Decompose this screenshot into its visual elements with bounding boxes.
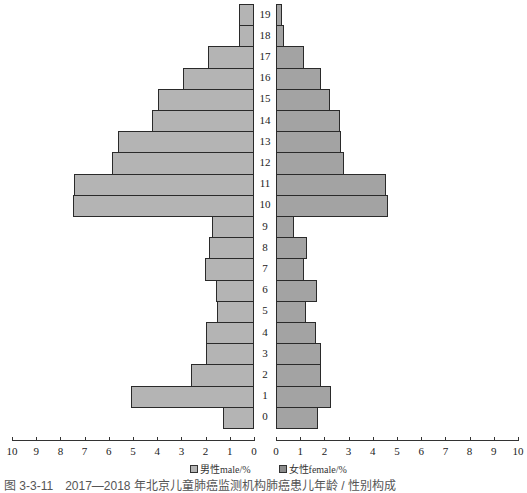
bar-female-age-10 [276, 195, 388, 217]
age-label: 6 [254, 283, 276, 295]
bar-male-age-6 [216, 280, 254, 302]
x-tick-label: 9 [484, 445, 504, 457]
x-tick-label: 5 [123, 445, 143, 457]
x-tick-label: 9 [26, 445, 46, 457]
age-label: 5 [254, 304, 276, 316]
x-tick [85, 437, 86, 441]
x-tick-label: 5 [387, 445, 407, 457]
x-tick [445, 437, 446, 441]
x-tick [60, 437, 61, 441]
age-label: 14 [254, 114, 276, 126]
bar-female-age-2 [276, 364, 321, 386]
bar-male-age-2 [191, 364, 254, 386]
bar-male-age-18 [239, 25, 254, 47]
legend-item-female: 女性female/% [279, 461, 347, 476]
x-tick [470, 437, 471, 441]
bar-female-age-14 [276, 110, 340, 132]
legend-label-male: 男性male/% [200, 461, 251, 476]
bar-male-age-9 [212, 216, 254, 238]
legend-item-male: 男性male/% [190, 461, 251, 476]
x-tick-label: 3 [171, 445, 191, 457]
bar-male-age-8 [209, 237, 254, 259]
x-tick [206, 437, 207, 441]
bar-male-age-19 [239, 4, 254, 26]
bar-male-age-15 [158, 89, 254, 111]
legend: 男性male/% 女性female/% [190, 461, 347, 476]
x-tick-label: 0 [266, 445, 286, 457]
age-label: 13 [254, 135, 276, 147]
legend-swatch-female [279, 465, 287, 473]
bar-female-age-17 [276, 46, 304, 68]
x-tick-label: 8 [460, 445, 480, 457]
age-label: 3 [254, 347, 276, 359]
legend-label-female: 女性female/% [289, 461, 347, 476]
x-tick-label: 6 [411, 445, 431, 457]
x-tick [109, 437, 110, 441]
age-label: 2 [254, 368, 276, 380]
x-tick-label: 7 [75, 445, 95, 457]
x-tick-label: 10 [508, 445, 527, 457]
age-label: 8 [254, 241, 276, 253]
x-tick [276, 437, 277, 441]
bar-female-age-19 [276, 4, 282, 26]
bar-female-age-9 [276, 216, 294, 238]
x-tick [300, 437, 301, 441]
x-tick [518, 437, 519, 441]
legend-swatch-male [190, 465, 198, 473]
x-tick [133, 437, 134, 441]
x-tick [421, 437, 422, 441]
bar-female-age-4 [276, 322, 316, 344]
x-tick-label: 1 [290, 445, 310, 457]
bar-male-age-14 [152, 110, 254, 132]
age-label: 15 [254, 92, 276, 104]
age-label: 9 [254, 220, 276, 232]
bar-male-age-7 [205, 258, 254, 280]
bar-male-age-11 [74, 174, 254, 196]
bar-female-age-5 [276, 301, 306, 323]
figure-caption: 图 3-3-11 2017—2018 年北京儿童肺癌监测机构肺癌患儿年龄 / 性… [4, 476, 396, 493]
age-label: 16 [254, 71, 276, 83]
x-tick [494, 437, 495, 441]
bar-male-age-17 [208, 46, 254, 68]
bar-male-age-16 [183, 68, 254, 90]
bar-male-age-3 [206, 343, 254, 365]
x-tick-label: 0 [244, 445, 264, 457]
age-label: 1 [254, 389, 276, 401]
bar-female-age-11 [276, 174, 386, 196]
x-tick [230, 437, 231, 441]
bar-female-age-12 [276, 152, 344, 174]
x-tick-label: 8 [50, 445, 70, 457]
x-tick-label: 2 [314, 445, 334, 457]
bar-female-age-16 [276, 68, 321, 90]
x-tick-label: 10 [2, 445, 22, 457]
x-tick [181, 437, 182, 441]
bar-female-age-18 [276, 25, 284, 47]
age-label: 4 [254, 326, 276, 338]
bar-male-age-13 [118, 131, 254, 153]
bar-female-age-15 [276, 89, 330, 111]
bar-male-age-4 [206, 322, 254, 344]
x-tick [397, 437, 398, 441]
age-label: 11 [254, 177, 276, 189]
x-tick [373, 437, 374, 441]
bar-male-age-10 [73, 195, 254, 217]
bar-female-age-8 [276, 237, 307, 259]
x-tick-label: 7 [435, 445, 455, 457]
age-label: 7 [254, 262, 276, 274]
bar-male-age-1 [131, 386, 254, 408]
age-label: 0 [254, 410, 276, 422]
bar-female-age-3 [276, 343, 321, 365]
x-tick [324, 437, 325, 441]
x-tick-label: 2 [196, 445, 216, 457]
age-label: 19 [254, 8, 276, 20]
x-tick-label: 4 [363, 445, 383, 457]
bar-male-age-0 [223, 407, 254, 429]
bar-male-age-5 [217, 301, 254, 323]
age-label: 12 [254, 156, 276, 168]
x-tick [349, 437, 350, 441]
age-label: 10 [254, 198, 276, 210]
bar-female-age-0 [276, 407, 318, 429]
bar-female-age-7 [276, 258, 304, 280]
x-tick-label: 3 [339, 445, 359, 457]
